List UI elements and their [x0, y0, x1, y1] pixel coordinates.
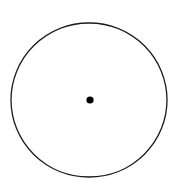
diagram-canvas [0, 0, 182, 186]
center-point [86, 96, 93, 103]
